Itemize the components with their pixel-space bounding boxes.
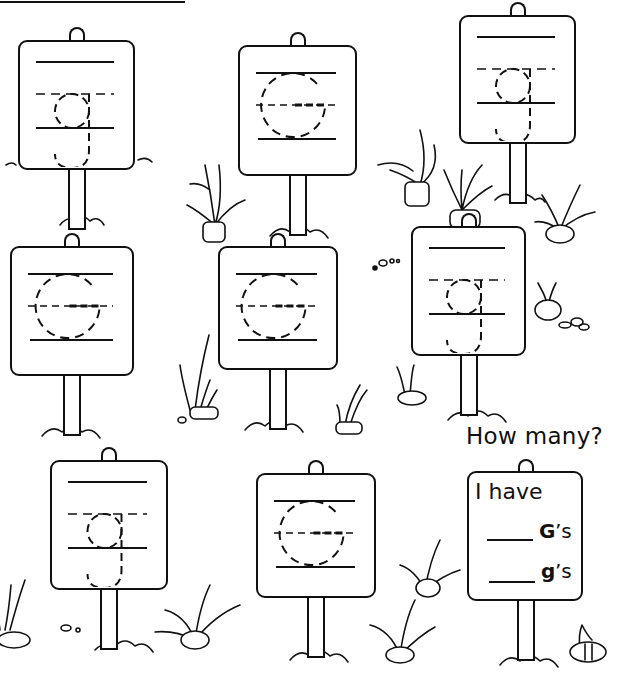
tracing-letter-g[interactable] [413,228,523,353]
sign-post-top [270,233,286,246]
uppercase-suffix: ’s [555,519,572,543]
sign-post-top [101,447,117,460]
letter-sign-1 [18,40,135,170]
sign-post [269,368,287,430]
letter-sign-4 [10,246,134,376]
sign-post [100,588,118,650]
sign-post-top [461,213,477,226]
sign-post [68,168,86,230]
sign-post [307,596,325,658]
sign-post-top [308,460,324,473]
letter-sign-7 [50,460,168,590]
worksheet-page: How many? I have G ’s g ’s [0,0,626,675]
letter-sign-5 [218,246,338,370]
question-title: How many? [466,423,603,449]
letter-sign-2 [238,45,357,176]
sign-post-top [69,27,85,40]
sign-post-top [64,233,80,246]
sign-post [63,374,81,436]
sign-post [289,174,307,236]
uppercase-letter-label: G [539,519,555,543]
answer-blank-lowercase[interactable] [489,581,535,583]
letter-sign-8 [256,473,376,598]
letter-sign-3 [459,15,576,144]
question-sign-post [517,599,535,661]
sign-post-top [290,32,306,45]
tracing-letter-G[interactable] [258,475,373,595]
sign-post [509,142,527,204]
sign-post-top [510,2,526,15]
question-sign-board: I have G ’s g ’s [467,471,583,601]
sign-post [460,354,478,416]
tracing-letter-G[interactable] [220,248,335,367]
tracing-letter-G[interactable] [12,248,131,373]
lowercase-letter-label: g [541,559,555,583]
tracing-letter-G[interactable] [240,47,354,173]
tracing-letter-g[interactable] [20,42,132,167]
tracing-letter-g[interactable] [461,17,573,141]
answer-blank-uppercase[interactable] [487,539,533,541]
tracing-letter-g[interactable] [52,462,165,587]
lowercase-suffix: ’s [555,559,572,583]
letter-sign-6 [411,226,526,356]
question-intro: I have [475,479,542,504]
